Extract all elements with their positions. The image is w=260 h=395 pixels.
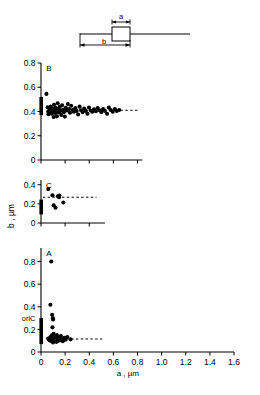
data-point-C-0 (46, 187, 50, 191)
data-point-B-38 (76, 112, 80, 116)
data-point-A-1 (48, 303, 52, 307)
data-point-A-4 (51, 317, 55, 321)
b-arrow-right (126, 43, 131, 46)
a-arrow-left (112, 20, 116, 23)
data-point-B-0 (44, 92, 48, 96)
panel-label-B: B (46, 64, 51, 73)
data-point-B-39 (78, 105, 82, 109)
x-tick-label-7: 1.4 (204, 357, 216, 367)
x-tick-label-2: 0.4 (83, 357, 95, 367)
y-tick-label-B-2: 0.4 (24, 107, 36, 117)
x-tick-label-6: 1.2 (180, 357, 192, 367)
data-point-B-33 (69, 104, 73, 108)
x-tick-label-4: 0.8 (132, 357, 144, 367)
ori-label: oriC (22, 314, 36, 323)
scatter-figure-svg: ab00.20.40.60.8B00.20.4C00.20.40.60.800.… (0, 0, 260, 395)
x-tick-label-8: 1.6 (228, 357, 240, 367)
a-arrow-right (126, 20, 130, 23)
y-axis-title: b , µm (6, 204, 16, 228)
x-axis-title: a , µm (117, 369, 140, 378)
y-tick-label-B-0: 0 (31, 155, 36, 165)
y-tick-label-A-4: 0.8 (24, 257, 36, 267)
x-tick-label-3: 0.6 (107, 357, 119, 367)
panel-label-A: A (46, 249, 52, 258)
data-point-A-5 (50, 325, 54, 329)
distribution-bar-C (39, 200, 43, 215)
data-point-B-31 (67, 107, 71, 111)
y-tick-label-A-0: 0 (31, 347, 36, 357)
data-point-A-30 (69, 337, 73, 341)
data-point-B-24 (60, 103, 64, 107)
y-tick-label-B-1: 0.2 (24, 131, 36, 141)
data-point-B-55 (105, 112, 109, 116)
y-tick-label-A-2: 0.4 (24, 302, 36, 312)
data-point-C-3 (53, 206, 57, 210)
y-tick-label-A-1: 0.2 (24, 325, 36, 335)
data-point-C-7 (61, 200, 65, 204)
figure-root: ab00.20.40.60.8B00.20.4C00.20.40.60.800.… (0, 0, 260, 395)
distribution-bar-B (39, 97, 43, 115)
data-point-B-44 (85, 112, 89, 116)
data-point-B-61 (117, 108, 121, 112)
data-point-C-6 (57, 193, 61, 197)
data-point-A-0 (49, 260, 53, 264)
data-point-B-27 (63, 115, 67, 119)
schematic-label-a: a (119, 12, 124, 21)
x-tick-label-0: 0 (39, 357, 44, 367)
schematic-label-b: b (102, 37, 106, 46)
x-tick-label-1: 0.2 (59, 357, 71, 367)
data-point-A-2 (50, 313, 54, 317)
y-tick-label-C-2: 0.4 (24, 180, 36, 190)
y-tick-label-B-4: 0.8 (24, 58, 36, 68)
b-arrow-left (80, 43, 85, 46)
y-tick-label-C-1: 0.2 (24, 199, 36, 209)
y-tick-label-B-3: 0.6 (24, 82, 36, 92)
x-tick-label-5: 1.0 (156, 357, 168, 367)
schematic-box (112, 27, 130, 41)
distribution-bar-A (39, 318, 43, 344)
data-point-B-18 (56, 101, 60, 105)
data-point-B-37 (75, 109, 79, 113)
y-tick-label-A-3: 0.6 (24, 279, 36, 289)
y-tick-label-C-0: 0 (31, 218, 36, 228)
data-point-B-17 (55, 114, 59, 118)
data-point-C-1 (50, 193, 54, 197)
